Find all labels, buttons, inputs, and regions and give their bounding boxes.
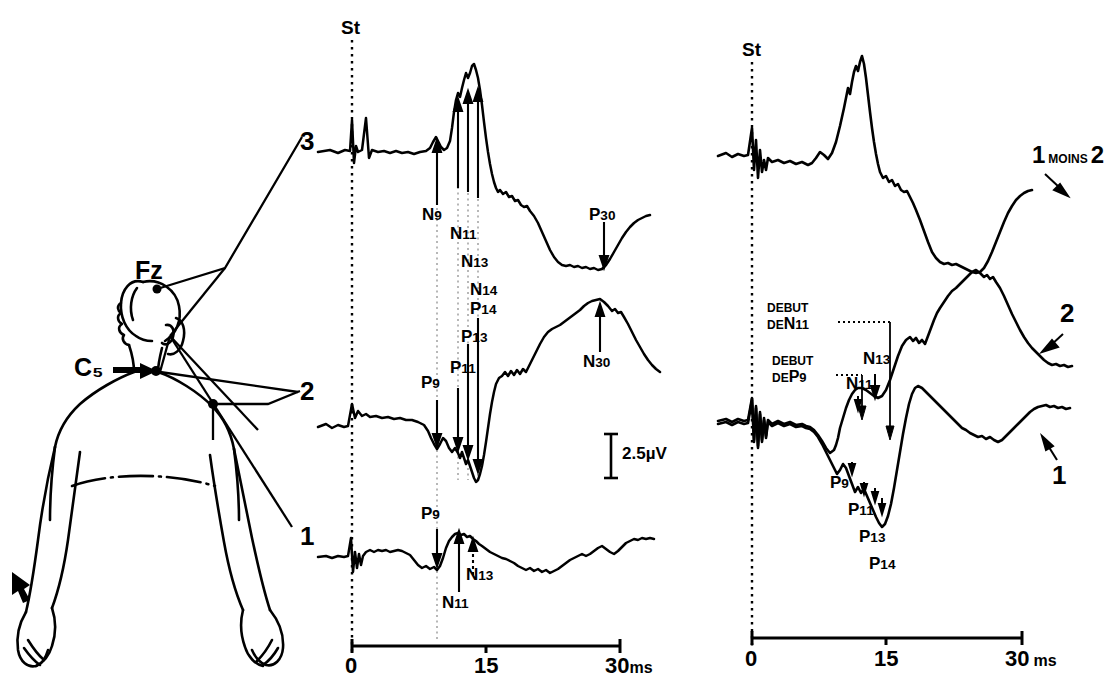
trace-label-2: 2 xyxy=(300,378,314,404)
shoulder-left xyxy=(55,372,134,447)
peak-base: P xyxy=(461,327,472,346)
peak-base: P xyxy=(421,504,432,523)
axis-tick-30ms-right: 30ms xyxy=(1005,648,1057,670)
peak-sub: 30 xyxy=(600,208,615,223)
body-diagram xyxy=(12,281,283,666)
shoulder-right xyxy=(158,372,234,449)
face-profile xyxy=(118,303,129,345)
debut-peak-sub: 9 xyxy=(799,370,806,385)
peak-label-n13-right: N13 xyxy=(863,350,890,367)
peak-label-p14-right: P14 xyxy=(869,555,895,572)
peak-sub: 13 xyxy=(473,255,488,270)
montage-leader-lines xyxy=(157,137,302,527)
peak-sub: 9 xyxy=(432,507,440,522)
peak-base: P xyxy=(589,205,600,224)
peak-label-p13: P13 xyxy=(461,328,487,345)
trace-1minus2-waveform xyxy=(718,56,1032,273)
peak-label-p14: P14 xyxy=(470,300,496,317)
peak-sub: 9 xyxy=(432,376,440,391)
peak-sub: 9 xyxy=(841,476,849,491)
trace-label-2-right: 2 xyxy=(1060,300,1074,326)
hand-right-outline xyxy=(252,610,283,665)
trace2-annotation-arrows xyxy=(433,304,604,472)
peak-label-n11-right: N11 xyxy=(846,375,873,392)
peak-sub: 11 xyxy=(858,377,872,392)
trace-label-suffix: 2 xyxy=(1091,141,1104,168)
left-trace-panel xyxy=(318,40,660,655)
peak-base: P xyxy=(421,373,432,392)
peak-sub: 13 xyxy=(870,530,885,545)
debut-line1: DEBUT xyxy=(767,302,809,314)
label-fz: Fz xyxy=(135,258,163,283)
peak-base: N xyxy=(583,352,595,371)
peak-sub: 14 xyxy=(482,283,497,298)
peak-base: N xyxy=(466,565,478,584)
debut-peak-base: N xyxy=(784,315,796,332)
peak-base: N xyxy=(846,374,858,393)
peak-label-p13-right: P13 xyxy=(859,528,885,545)
peak-base: N xyxy=(470,280,482,299)
peak-base: P xyxy=(848,500,859,519)
arm-right-outer xyxy=(234,449,270,610)
peak-label-p9-trace1: P9 xyxy=(421,505,440,522)
axis-unit: ms xyxy=(1029,652,1056,669)
peak-label-n30: N30 xyxy=(583,353,610,370)
axis-tick-value: 30 xyxy=(1005,646,1029,671)
label-st-left: St xyxy=(341,18,360,37)
peak-base: P xyxy=(830,473,841,492)
trace-label-1-right: 1 xyxy=(1052,462,1066,488)
time-axis-right xyxy=(752,631,1022,645)
debut-line2-prefix: DE xyxy=(772,371,789,385)
time-axis-left xyxy=(352,639,620,653)
peak-sub: 14 xyxy=(481,302,496,317)
peak-sub: 14 xyxy=(880,557,895,572)
scale-bar-label: 2.5µV xyxy=(622,445,667,462)
trace-label-1: 1 xyxy=(300,523,314,549)
trace-label-3: 3 xyxy=(300,128,314,154)
debut-peak-base: P xyxy=(789,368,800,385)
debut-n11-label: DEBUT DEN11 xyxy=(767,302,809,332)
peak-label-n11-trace1: N11 xyxy=(442,594,469,611)
trace-label-prefix: 1 xyxy=(1032,141,1045,168)
head-crown xyxy=(131,288,137,320)
peak-label-p30: P30 xyxy=(589,206,615,223)
peak-sub: 11 xyxy=(454,596,468,611)
peak-label-n11: N11 xyxy=(450,225,477,242)
trace-label-moins: MOINS xyxy=(1045,152,1090,166)
waist-line xyxy=(72,476,215,486)
axis-tick-15-left: 15 xyxy=(474,655,498,677)
axis-tick-15-right: 15 xyxy=(874,648,898,670)
peak-base: N xyxy=(422,205,434,224)
scale-bar-left xyxy=(604,434,618,478)
trace-2-waveform xyxy=(318,299,660,482)
peak-label-n9: N9 xyxy=(422,206,442,223)
peak-label-n13-trace1: N13 xyxy=(466,566,493,583)
peak-sub: 13 xyxy=(478,568,493,583)
peak-base: P xyxy=(869,554,880,573)
peak-base: N xyxy=(442,593,454,612)
figure-canvas xyxy=(0,0,1118,693)
debut-line1: DEBUT xyxy=(772,355,813,367)
debut-line2-prefix: DE xyxy=(767,318,784,332)
peak-sub: 11 xyxy=(461,361,475,376)
peak-base: P xyxy=(470,299,481,318)
arm-left-inner xyxy=(52,452,80,608)
axis-tick-0-right: 0 xyxy=(745,648,757,670)
peak-sub: 9 xyxy=(434,208,442,223)
peak-label-p11: P11 xyxy=(450,359,476,376)
peak-sub: 13 xyxy=(875,352,890,367)
trace-1-right-waveform xyxy=(718,386,1070,527)
peak-sub: 13 xyxy=(472,330,487,345)
stimulation-arrow xyxy=(12,572,30,603)
peak-base: N xyxy=(863,349,875,368)
peak-label-p9: P9 xyxy=(421,374,440,391)
debut-peak-sub: 11 xyxy=(795,317,809,332)
hand-left-thumb xyxy=(36,608,55,666)
axis-tick-0-left: 0 xyxy=(345,655,357,677)
figure-root xyxy=(0,0,1118,693)
peak-base: P xyxy=(450,358,461,377)
peak-label-p9-right: P9 xyxy=(830,474,849,491)
right-annotation-arrows xyxy=(849,174,1068,514)
peak-label-p11-right: P11 xyxy=(848,501,874,518)
trace-3-waveform xyxy=(318,64,650,270)
